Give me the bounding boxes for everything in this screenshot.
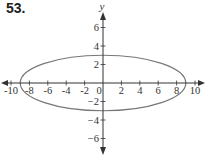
x-tick-label: 8 <box>174 85 179 96</box>
y-tick-label: −4 <box>88 115 100 126</box>
y-tick-label: −2 <box>88 96 99 107</box>
y-tick-label: 4 <box>94 41 100 52</box>
ellipse-graph: y-10-8-6-4-20246810−6−4−2246 <box>0 0 208 158</box>
x-tick-label: -10 <box>4 85 18 96</box>
y-axis-label: y <box>99 0 105 12</box>
x-tick-label: 6 <box>156 85 161 96</box>
y-axis-up-arrow-icon <box>100 12 106 20</box>
x-tick-label: -6 <box>43 85 52 96</box>
x-tick-label: -2 <box>80 85 89 96</box>
x-tick-label: 2 <box>119 85 124 96</box>
y-tick-label: −6 <box>88 133 99 144</box>
y-axis-down-arrow-icon <box>100 147 106 155</box>
x-tick-label: 4 <box>137 85 143 96</box>
x-tick-label: 0 <box>96 85 101 96</box>
x-tick-label: -4 <box>62 85 71 96</box>
y-tick-label: 2 <box>94 59 99 70</box>
y-tick-label: 6 <box>94 22 99 33</box>
x-tick-label: -8 <box>25 85 34 96</box>
x-tick-label: 10 <box>190 85 201 96</box>
